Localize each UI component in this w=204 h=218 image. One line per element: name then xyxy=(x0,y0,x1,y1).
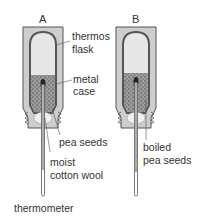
label-boiled: boiled xyxy=(143,141,171,153)
flask-b-heading: B xyxy=(132,13,139,25)
label-thermos: thermos xyxy=(72,30,110,42)
label-pea-seeds: pea seeds xyxy=(59,136,107,148)
label-flask: flask xyxy=(72,43,94,55)
label-thermometer: thermometer xyxy=(14,202,74,214)
flask-b xyxy=(116,27,156,196)
thermometer-a xyxy=(41,79,46,196)
label-case: case xyxy=(73,85,95,97)
label-cotton-wool: cotton wool xyxy=(50,169,103,181)
label-moist: moist xyxy=(50,156,75,168)
thermometer-b xyxy=(134,77,139,196)
label-metal: metal xyxy=(73,73,99,85)
flask-a-heading: A xyxy=(39,13,46,25)
label-boiled-pea-seeds: pea seeds xyxy=(143,154,191,166)
